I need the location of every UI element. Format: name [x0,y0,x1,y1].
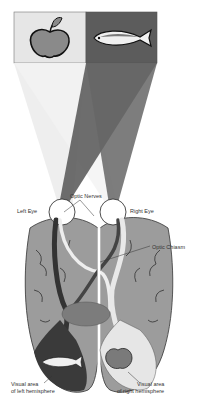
label-visual-right-line2: of right hemisphere [117,388,164,394]
label-optic-nerves: Optic Nerves [70,193,102,199]
light-rays [14,63,157,214]
visual-pathway-diagram [0,0,201,410]
label-left-eye: Left Eye [17,208,37,214]
cortex-apple-icon [106,348,132,368]
thalamus [62,302,110,326]
left-eye [49,199,75,225]
label-visual-left-line1: Visual area [11,381,38,387]
label-right-eye: Right Eye [130,208,154,214]
label-optic-chiasm: Optic Chiasm [152,244,185,250]
label-visual-right-line1: Visual area [137,381,164,387]
label-visual-left-line2: of left hemisphere [11,388,55,394]
